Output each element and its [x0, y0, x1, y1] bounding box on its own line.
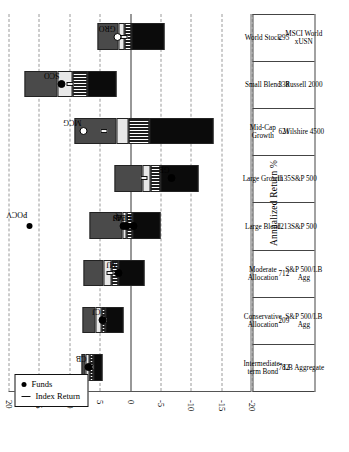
- category-bar[interactable]: SCO: [24, 71, 116, 97]
- table-column: Large Growth1135S&P 500: [252, 156, 314, 203]
- benchmark-index: LB Aggregate: [281, 358, 327, 379]
- benchmark-index: S&P 500/LB Agg: [281, 310, 327, 331]
- axis-tick-label: 0: [125, 400, 135, 404]
- table-column: World Stock295MSCI World xUSN: [252, 14, 314, 62]
- benchmark-index: S&P 500: [281, 169, 327, 190]
- category-bar[interactable]: AJMSBEQ: [89, 212, 160, 238]
- plot-area: 20151050-5-10-15-20CBCJMJAJMSBEQGEMCGSCO…: [8, 14, 251, 392]
- axis-tick-label: -5: [155, 400, 165, 407]
- quartile-segment-q4: [149, 118, 213, 144]
- gridline: [160, 14, 161, 391]
- quartile-segment-q4: [87, 71, 116, 97]
- category-bar[interactable]: MJ: [83, 260, 144, 286]
- fund-marker[interactable]: [57, 80, 65, 88]
- gridline: [8, 14, 9, 391]
- quartile-segment-q1: [114, 165, 143, 191]
- category-bar[interactable]: CJ: [82, 307, 123, 333]
- fund-marker[interactable]: [114, 269, 122, 277]
- quartile-segment-q1: [83, 260, 103, 286]
- category-bar[interactable]: GRO: [97, 23, 164, 49]
- axis-tick-label: 5: [94, 400, 104, 404]
- fund-marker[interactable]: [98, 316, 106, 324]
- quartile-segment-q3: [72, 71, 87, 97]
- fund-label: CB: [76, 354, 87, 363]
- quartile-segment-q2: [116, 118, 128, 144]
- annotation-label: POCV: [6, 210, 27, 219]
- benchmark-index: S&P 500: [281, 216, 327, 237]
- gridline: [221, 14, 222, 391]
- table-column: Large Blend1213S&P 500: [252, 204, 314, 251]
- category-table: Intermediate-term Bond782LB AggregateCon…: [252, 14, 314, 392]
- chart-legend: Funds Index Return: [14, 374, 88, 407]
- index-return-marker: [140, 177, 147, 181]
- table-column: Mid-Cap Growth621Wilshire 4500: [252, 109, 314, 156]
- index-return-marker: [100, 129, 107, 133]
- fund-label: MJ: [106, 260, 116, 269]
- fund-marker[interactable]: [79, 127, 87, 135]
- index-marker-icon: [21, 396, 30, 397]
- benchmark-index: Wilshire 4500: [281, 122, 327, 143]
- index-return-marker: [106, 271, 113, 275]
- quartile-segment-q4: [105, 307, 123, 333]
- category-bar[interactable]: MCG: [74, 118, 214, 144]
- zero-line: [130, 14, 131, 391]
- fund-label: SCO: [43, 71, 59, 80]
- quartile-segment-q4: [93, 354, 102, 380]
- table-column: Small Blend338Russell 2000: [252, 62, 314, 109]
- fund-marker[interactable]: [129, 222, 137, 230]
- index-return-marker: [66, 82, 73, 86]
- benchmark-index: Russell 2000: [281, 75, 327, 96]
- category-bar[interactable]: GE: [114, 165, 198, 191]
- benchmark-index: S&P 500/LB Agg: [281, 263, 327, 284]
- fund-label: MCG: [62, 118, 80, 127]
- table-column: Moderate Allocation712S&P 500/LB Agg: [252, 251, 314, 298]
- table-bottom-rule: [314, 14, 315, 392]
- chart-stage: 20151050-5-10-15-20CBCJMJAJMSBEQGEMCGSCO…: [0, 0, 349, 452]
- legend-label-index: Index Return: [35, 390, 80, 402]
- annotation-marker[interactable]: [26, 223, 32, 229]
- fund-label: CJ: [91, 307, 99, 316]
- table-column: Intermediate-term Bond782LB Aggregate: [252, 345, 314, 392]
- legend-item-funds: Funds: [21, 378, 80, 390]
- fund-marker[interactable]: [113, 33, 121, 41]
- quartile-segment-q3: [128, 118, 149, 144]
- axis-tick-label: -10: [185, 400, 195, 411]
- table-column: Conservative Allocation209S&P 500/LB Agg: [252, 298, 314, 345]
- fund-label: GRO: [98, 24, 115, 33]
- benchmark-index: MSCI World xUSN: [281, 28, 327, 49]
- gridline: [190, 14, 191, 391]
- axis-tick-label: -20: [246, 400, 256, 411]
- figure: 20151050-5-10-15-20CBCJMJAJMSBEQGEMCGSCO…: [0, 0, 349, 452]
- axis-tick-label: -15: [216, 400, 226, 411]
- fund-label: BEQ: [115, 213, 131, 222]
- quartile-segment-q4: [131, 23, 164, 49]
- legend-item-index: Index Return: [21, 390, 80, 402]
- fund-label: GE: [159, 165, 170, 174]
- funds-marker-icon: [21, 382, 26, 387]
- fund-marker[interactable]: [167, 174, 175, 182]
- fund-marker[interactable]: [84, 363, 92, 371]
- legend-label-funds: Funds: [31, 378, 52, 390]
- axis-tick-label: 20: [3, 400, 13, 409]
